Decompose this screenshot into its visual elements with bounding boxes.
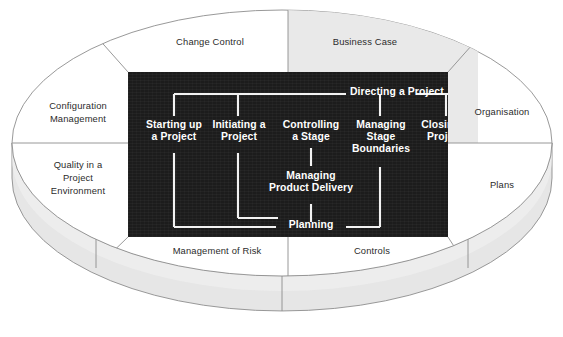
process-model-box: Directing a Project Starting up a Projec… (128, 72, 448, 237)
process-label-managing-product-delivery: Managing Product Delivery (252, 170, 370, 194)
prince2-diagram-canvas: Change Control Business Case Configurati… (0, 0, 563, 337)
process-label-closing-a-project: Closing a Project (406, 119, 448, 143)
process-label-directing-a-project: Directing a Project (350, 86, 448, 98)
process-label-planning: Planning (280, 219, 342, 231)
